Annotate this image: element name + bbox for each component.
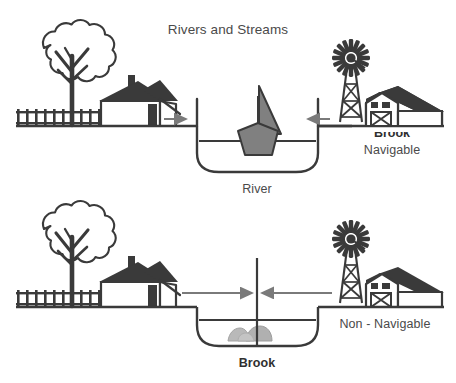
page-title: Rivers and Streams <box>168 22 288 37</box>
brook-panel: Non - Navigable Brook <box>16 201 444 370</box>
barn-icon <box>366 267 444 307</box>
fence-icon <box>16 290 112 306</box>
brook-caption: Brook <box>239 356 276 370</box>
navigable-label: Navigable <box>364 143 421 157</box>
windmill-icon <box>332 220 370 303</box>
sailboat-icon <box>238 86 281 155</box>
river-caption: River <box>242 182 272 196</box>
fence-icon <box>16 109 112 125</box>
rivers-and-streams-diagram: Rivers and Streams <box>0 0 456 383</box>
house-icon <box>99 256 180 307</box>
river-panel: Brook Navigable River <box>16 20 446 196</box>
brook-right-scene <box>318 220 444 307</box>
non-navigable-label: Non - Navigable <box>339 317 430 331</box>
diagram-canvas: Rivers and Streams <box>0 0 456 383</box>
windmill-icon <box>332 39 370 122</box>
rocks-icon <box>228 326 272 341</box>
barn-icon-overlap <box>366 86 444 126</box>
brook-left-scene <box>16 201 197 307</box>
